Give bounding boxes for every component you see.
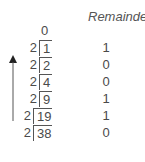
divisor: 2: [19, 108, 31, 124]
arrow-head: [9, 55, 17, 63]
dividend: 9: [39, 91, 52, 107]
remainder-value: 1: [100, 40, 112, 56]
divisor: 2: [25, 91, 37, 107]
divisor: 2: [25, 40, 37, 56]
divisor: 2: [25, 74, 37, 90]
division-row: 291: [0, 91, 145, 107]
arrow-up-icon: [8, 55, 18, 121]
divisor: 2: [25, 57, 37, 73]
remainder-value: 1: [100, 91, 112, 107]
dividend: 1: [39, 40, 52, 56]
remainder-value: 0: [100, 74, 112, 90]
division-row: 2191: [0, 108, 145, 124]
remainder-value: 0: [100, 125, 112, 141]
quotient-zero: 0: [41, 23, 48, 38]
dividend: 38: [33, 125, 52, 141]
division-row: 211: [0, 40, 145, 56]
division-row: 220: [0, 57, 145, 73]
dividend: 19: [33, 108, 52, 124]
dividend: 2: [39, 57, 52, 73]
remainder-value: 0: [100, 57, 112, 73]
remainder-value: 1: [100, 108, 112, 124]
division-row: 240: [0, 74, 145, 90]
remainder-header: Remainder: [88, 9, 145, 24]
dividend: 4: [39, 74, 52, 90]
division-row: 2380: [0, 125, 145, 141]
divisor: 2: [19, 125, 31, 141]
